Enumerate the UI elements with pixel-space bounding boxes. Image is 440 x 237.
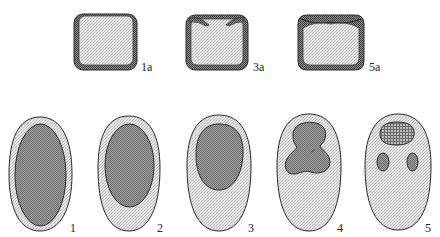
stage-2: 2 xyxy=(98,116,163,235)
box-5a: 5a xyxy=(298,15,381,74)
label-2: 2 xyxy=(157,221,163,235)
box-3a: 3a xyxy=(186,15,265,74)
label-3a: 3a xyxy=(253,60,265,74)
box-1a: 1a xyxy=(74,14,153,74)
stage-4: 4 xyxy=(277,114,343,235)
label-4: 4 xyxy=(337,221,343,235)
label-1a: 1a xyxy=(141,60,153,74)
diagram-canvas: 1a 3a 5a 1 2 3 4 xyxy=(0,0,440,237)
label-5: 5 xyxy=(425,221,431,235)
label-1: 1 xyxy=(70,221,76,235)
label-5a: 5a xyxy=(369,60,381,74)
label-3: 3 xyxy=(248,221,254,235)
stage-1: 1 xyxy=(9,117,76,235)
top-oval-crosshatch xyxy=(380,122,414,145)
left-small-oval xyxy=(377,153,389,171)
right-small-oval xyxy=(407,153,418,171)
stage-5: 5 xyxy=(365,114,431,235)
stage-3: 3 xyxy=(187,115,254,235)
